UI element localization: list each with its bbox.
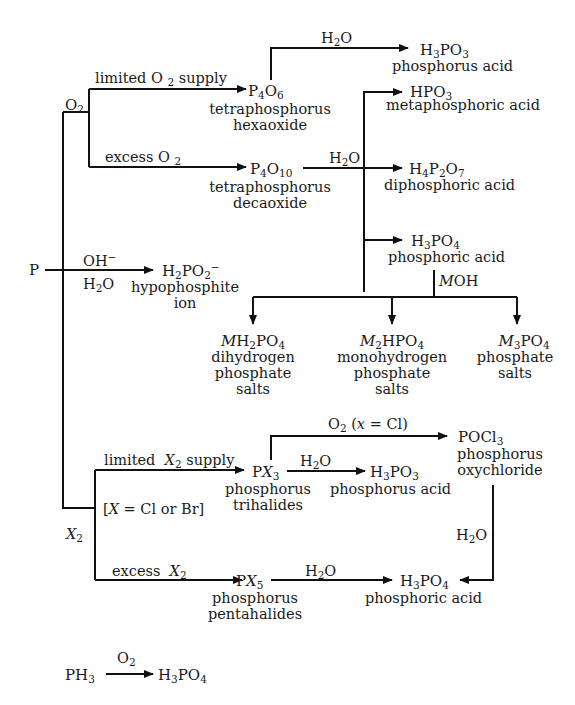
p4o6-formula: P4O6 <box>248 83 284 99</box>
condition-moh: MOH <box>439 273 478 289</box>
m3po4-node: M3PO4 phosphate salts <box>460 333 570 381</box>
h3po3-top-formula: H3PO3 <box>420 42 469 58</box>
condition-o2-x-cl: O2 (x = Cl) <box>328 416 408 432</box>
h2po2-formula: H2PO2− <box>162 263 220 279</box>
o2-branch-label: O2 <box>65 97 84 113</box>
mh2po4-node: MH2PO4 dihydrogen phosphate salts <box>198 333 308 397</box>
px3-name: phosphorus trihalides <box>218 481 318 513</box>
h4p2o7-formula: H4P2O7 <box>409 161 465 177</box>
h3po4-mid-name: phosphoric acid <box>388 249 505 265</box>
px3-formula: PX3 <box>252 464 279 480</box>
h3po4-ph3-formula: H3PO4 <box>158 667 207 683</box>
h2po2-name: hypophosphite ion <box>125 279 245 311</box>
h3po4-bottom-formula: H3PO4 <box>400 573 449 589</box>
px5-formula: PX5 <box>236 573 263 589</box>
condition-oh-minus: OH− <box>83 253 116 269</box>
ph3-formula: PH3 <box>65 667 95 683</box>
x2-branch-label: X2 <box>66 526 83 542</box>
px5-name: phosphorus pentahalides <box>200 590 310 622</box>
pocl3-formula: POCl3 <box>458 429 503 445</box>
phosphorus-node: P <box>29 262 39 278</box>
p4o6-name: tetraphosphorus hexaoxide <box>205 101 335 133</box>
p4o10-formula: P4O10 <box>250 161 292 177</box>
condition-h2o-px5: H2O <box>305 563 336 579</box>
condition-h2o-hypo: H2O <box>83 276 114 292</box>
condition-x-note: [X = Cl or Br] <box>103 501 204 517</box>
condition-limited-o2: limited O 2 supply <box>95 70 227 86</box>
h4p2o7-name: diphosphoric acid <box>384 177 515 193</box>
h3po4-mid-formula: H3PO4 <box>411 233 460 249</box>
condition-excess-o2: excess O 2 <box>105 149 181 165</box>
condition-limited-x2: limited X2 supply <box>104 452 234 468</box>
h3po3-bottom-name: phosphorus acid <box>330 481 451 497</box>
hpo3-name: metaphosphoric acid <box>386 97 540 113</box>
h3po4-bottom-name: phosphoric acid <box>365 590 482 606</box>
condition-excess-x2: excess X2 <box>112 563 187 579</box>
p4o10-name: tetraphosphorus decaoxide <box>205 179 335 211</box>
condition-h2o-p4o6: H2O <box>321 30 352 46</box>
condition-h2o-pocl3: H2O <box>456 527 487 543</box>
condition-o2-ph3: O2 <box>117 650 136 666</box>
condition-h2o-px3: H2O <box>300 453 331 469</box>
pocl3-name: phosphorus oxychloride <box>450 446 550 478</box>
condition-h2o-p4o10: H2O <box>329 150 360 166</box>
m2hpo4-node: M2HPO4 monohydrogen phosphate salts <box>327 333 457 397</box>
h3po3-top-name: phosphorus acid <box>392 58 513 74</box>
h3po3-bottom-formula: H3PO3 <box>370 464 419 480</box>
